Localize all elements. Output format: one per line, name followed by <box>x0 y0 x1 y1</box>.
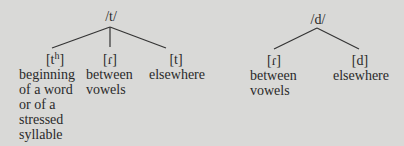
allophone-plain-d-description: elsewhere <box>333 68 389 83</box>
phoneme-d: /d/ <box>311 12 326 27</box>
allophone-flap-d-description: between vowels <box>250 68 297 98</box>
allophone-plain-t: [t] <box>169 52 182 67</box>
phoneme-t: /t/ <box>105 9 117 24</box>
allophone-flap-t-description: between vowels <box>86 67 133 97</box>
allophone-flap-d: [ɾ] <box>267 53 281 68</box>
allophone-flap-t: [ɾ] <box>103 52 117 67</box>
allophone-aspirated-t-description: beginning of a word or of a stressed syl… <box>19 67 75 142</box>
allophone-aspirated-t: [th] <box>46 52 64 67</box>
allophone-plain-d: [d] <box>352 53 368 68</box>
allophone-plain-t-description: elsewhere <box>149 67 205 82</box>
